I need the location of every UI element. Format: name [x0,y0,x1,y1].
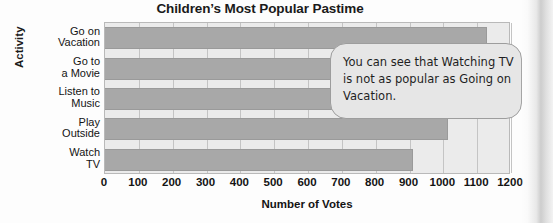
x-axis-tick-label: 800 [365,176,384,188]
y-axis-tick-label: WatchTV [28,147,100,170]
chart-figure: Children’s Most Popular Pastime Activity… [0,0,553,223]
bar [105,149,413,171]
x-axis-title: Number of Votes [104,198,510,210]
x-axis-tick-label: 1000 [430,176,456,188]
x-axis-tick-label: 500 [264,176,283,188]
callout-text: You can see that Watching TV is not as p… [343,54,515,105]
y-axis-tick-label: Go toa Movie [28,56,100,79]
y-axis-tick-label: Listen toMusic [28,86,100,109]
bar-row [105,118,511,140]
callout-bubble: You can see that Watching TV is not as p… [330,43,522,119]
y-axis-tick-labels: Go onVacationGo toa MovieListen toMusicP… [28,22,100,174]
y-axis-title: Activity [13,26,25,68]
x-axis-tick-labels: 0100200300400500600700800900100011001200 [104,176,510,191]
x-axis-tick-label: 900 [399,176,418,188]
scanned-page-edge [521,0,553,223]
y-axis-tick-label: Go onVacation [28,26,100,49]
bar-row [105,149,511,171]
bar [105,118,448,140]
chart-title: Children’s Most Popular Pastime [0,1,520,16]
x-axis-tick-label: 200 [162,176,181,188]
x-axis-tick-label: 0 [101,176,107,188]
x-axis-tick-label: 400 [230,176,249,188]
x-axis-tick-label: 100 [128,176,147,188]
bar [105,88,332,110]
x-axis-tick-label: 700 [331,176,350,188]
x-axis-tick-label: 1100 [464,176,489,188]
x-axis-tick-label: 600 [297,176,316,188]
bar [105,58,342,80]
x-axis-tick-label: 300 [196,176,215,188]
y-axis-tick-label: PlayOutside [28,117,100,140]
x-axis-tick-label: 1200 [497,176,523,188]
